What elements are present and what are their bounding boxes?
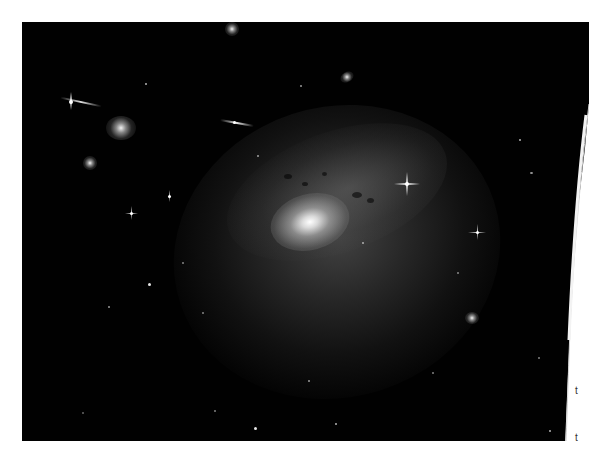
page: t t h g c [0,0,589,462]
star [538,357,540,359]
star [182,262,184,264]
star [519,139,521,141]
galaxy-core [264,185,356,260]
star [457,272,459,274]
star [145,83,147,85]
background-galaxy [465,312,479,324]
text-line: t [575,383,586,399]
background-galaxy [225,22,239,36]
star [432,372,434,374]
star [108,306,110,308]
diffraction-spike [406,172,408,196]
star [148,283,151,286]
star [82,412,84,414]
dust-lane [302,182,308,186]
text-line: t [575,430,586,446]
diffraction-spike [220,119,254,126]
background-galaxy [106,116,136,140]
diffraction-spike [125,213,138,214]
star [202,312,204,314]
star [335,423,337,425]
revealed-page-text: t t h g c [575,352,586,462]
star [214,410,216,412]
star [530,172,533,174]
dust-lane [367,198,374,203]
star [549,430,551,432]
galaxy-photo [22,22,589,441]
background-galaxy [83,156,97,170]
dust-lane [322,172,327,176]
background-galaxy [338,69,355,85]
diffraction-spike [477,224,478,240]
star [300,85,302,87]
star [257,155,259,157]
diffraction-spike [60,97,101,107]
dust-lane [284,174,292,179]
star [362,242,364,244]
diffraction-spike [169,190,170,202]
dust-lane [352,192,362,198]
galaxy-disk [135,63,538,441]
diffraction-spike [70,92,72,110]
star [308,380,310,382]
star [254,427,257,430]
